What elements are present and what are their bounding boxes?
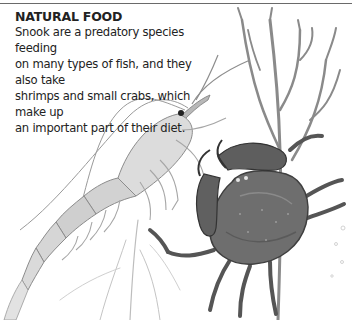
bubbles-decoration: [331, 226, 345, 277]
natural-food-section: NATURAL FOOD Snook are a predatory speci…: [15, 9, 215, 136]
body-line: Snook are a predatory species feeding: [15, 24, 215, 56]
body-line: on many types of fish, and they also tak…: [15, 56, 215, 88]
body-line: an important part of their diet.: [15, 120, 215, 136]
body-line: shrimps and small crabs, which make up: [15, 88, 215, 120]
section-heading: NATURAL FOOD: [15, 9, 215, 24]
